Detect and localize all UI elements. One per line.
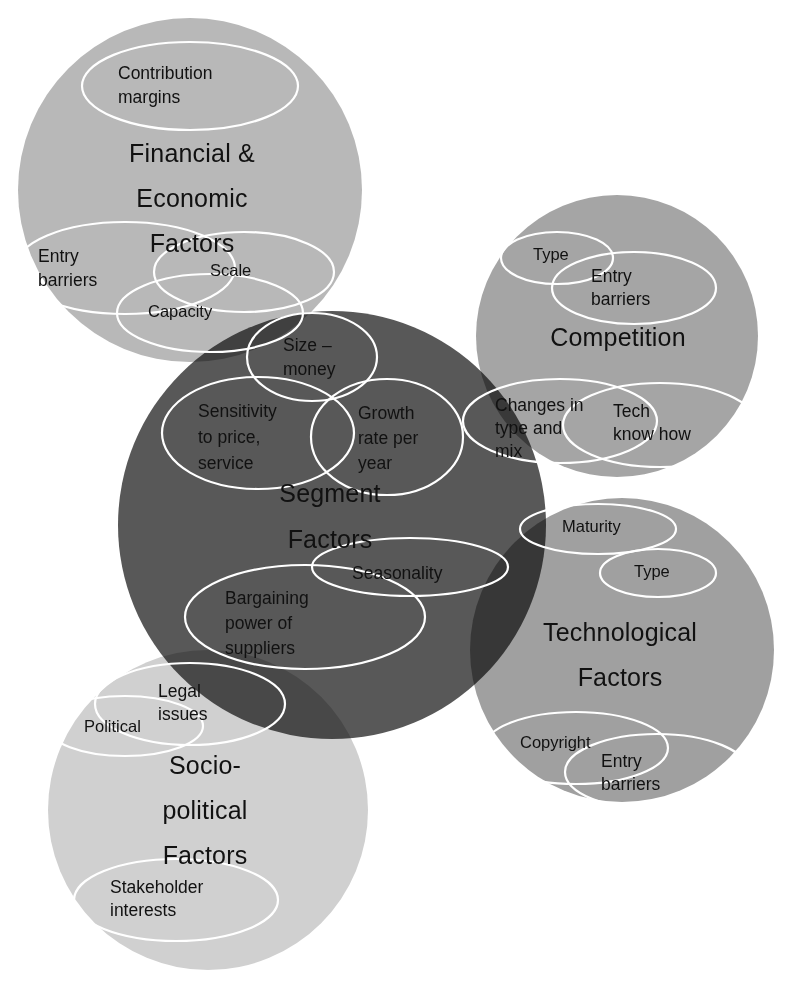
sub-ellipse-label-entry-barriers-fin: barriers (38, 270, 98, 290)
main-circle-label-segment: Segment (279, 479, 380, 507)
main-circle-label-financial: Factors (150, 229, 235, 257)
sub-ellipse-label-bargaining-power-of-suppliers: Bargaining (225, 588, 309, 608)
sub-ellipse-label-growth-rate-per-year: rate per (358, 428, 418, 448)
sub-ellipse-label-tech-know-how: know how (613, 424, 691, 444)
sub-ellipse-label-bargaining-power-of-suppliers: suppliers (225, 638, 295, 658)
sub-ellipse-label-scale: Scale (210, 261, 251, 279)
main-circle-label-financial: Economic (136, 184, 247, 212)
main-circle-label-socio-political: Socio- (169, 751, 241, 779)
sub-ellipse-label-entry-barriers-fin: Entry (38, 246, 79, 266)
sub-ellipse-label-stakeholder-interests: interests (110, 900, 176, 920)
main-circle-label-socio-political: political (162, 796, 247, 824)
sub-ellipse-label-tech-know-how: Tech (613, 401, 650, 421)
sub-ellipse-label-type-comp: Type (533, 245, 569, 263)
sub-ellipse-label-entry-barriers-tech: barriers (601, 774, 661, 794)
main-circle-label-socio-political: Factors (163, 841, 248, 869)
sub-ellipse-label-capacity: Capacity (148, 302, 213, 320)
main-circle-label-competition: Competition (550, 323, 686, 351)
sub-ellipse-label-entry-barriers-tech: Entry (601, 751, 642, 771)
main-circle-label-technological: Factors (578, 663, 663, 691)
sub-ellipse-label-size-money: money (283, 359, 336, 379)
sub-ellipse-label-sensitivity-to-price-service: service (198, 453, 253, 473)
sub-ellipse-label-growth-rate-per-year: year (358, 453, 392, 473)
sub-ellipse-label-size-money: Size – (283, 335, 332, 355)
sub-ellipse-label-legal-issues: issues (158, 704, 208, 724)
sub-ellipse-label-seasonality: Seasonality (352, 563, 443, 583)
main-circle-label-financial: Financial & (129, 139, 255, 167)
sub-ellipse-label-changes-in-type-and-mix: type and (495, 418, 562, 438)
sub-ellipse-label-legal-issues: Legal (158, 681, 201, 701)
sub-ellipse-label-maturity: Maturity (562, 517, 621, 535)
sub-ellipse-label-contribution-margins: margins (118, 87, 180, 107)
sub-ellipse-label-sensitivity-to-price-service: Sensitivity (198, 401, 277, 421)
sub-ellipse-label-entry-barriers-comp: Entry (591, 266, 632, 286)
sub-ellipse-label-growth-rate-per-year: Growth (358, 403, 414, 423)
factors-venn-diagram: Financial &EconomicFactorsContributionma… (0, 0, 809, 984)
main-circle-label-segment: Factors (288, 525, 373, 553)
sub-ellipse-label-copyright: Copyright (520, 733, 591, 751)
sub-ellipse-label-stakeholder-interests: Stakeholder (110, 877, 204, 897)
sub-ellipse-label-bargaining-power-of-suppliers: power of (225, 613, 292, 633)
sub-ellipse-label-entry-barriers-comp: barriers (591, 289, 651, 309)
sub-ellipse-label-contribution-margins: Contribution (118, 63, 212, 83)
sub-ellipse-label-type-tech: Type (634, 562, 670, 580)
main-circle-label-technological: Technological (543, 618, 697, 646)
venn-diagram-canvas: Financial &EconomicFactorsContributionma… (0, 0, 809, 984)
sub-ellipse-label-political: Political (84, 717, 141, 735)
sub-ellipse-label-sensitivity-to-price-service: to price, (198, 427, 260, 447)
sub-ellipse-label-changes-in-type-and-mix: Changes in (495, 395, 584, 415)
sub-ellipse-label-changes-in-type-and-mix: mix (495, 441, 522, 461)
